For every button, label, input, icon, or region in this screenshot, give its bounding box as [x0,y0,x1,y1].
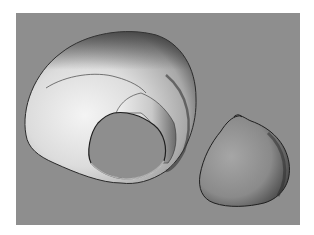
scene-svg [16,13,300,225]
bone-flap [200,115,290,207]
skull-with-defect [25,32,196,184]
render-viewport [16,13,300,225]
